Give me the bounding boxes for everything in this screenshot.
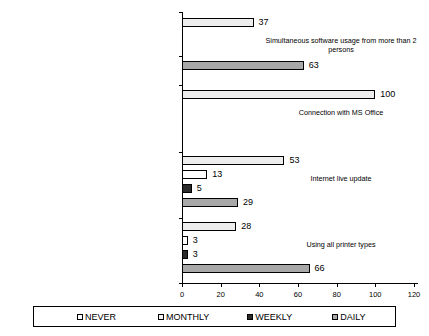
x-axis-tick-label: 60	[283, 290, 313, 299]
bar-daily-group-3	[182, 264, 310, 273]
bar-value-daily-group-0: 63	[309, 61, 319, 70]
legend-item-monthly[interactable]: MONTHLY	[158, 312, 209, 322]
legend-label-never: NEVER	[85, 312, 116, 322]
bar-chart: Simultaneous software usage from more th…	[0, 0, 429, 336]
legend-item-weekly[interactable]: WEEKLY	[247, 312, 292, 322]
bar-weekly-group-3	[182, 250, 188, 259]
y-axis-tick	[179, 85, 182, 86]
y-axis-tick	[179, 152, 182, 153]
bar-value-weekly-group-3: 3	[193, 250, 198, 259]
bar-value-weekly-group-2: 5	[197, 184, 202, 193]
bar-never-group-3	[182, 222, 236, 231]
x-axis-tick	[375, 283, 376, 287]
bar-value-never-group-3: 28	[241, 222, 251, 231]
x-axis-tick	[414, 283, 415, 287]
bar-value-monthly-group-3: 3	[193, 236, 198, 245]
x-axis-tick-label: 120	[399, 290, 429, 299]
monthly-swatch-icon	[158, 314, 164, 320]
bar-daily-group-0	[182, 61, 304, 70]
x-axis-line	[182, 283, 418, 284]
x-axis-tick	[182, 283, 183, 287]
legend-item-never[interactable]: NEVER	[77, 312, 116, 322]
never-swatch-icon	[77, 314, 83, 320]
bar-weekly-group-2	[182, 184, 192, 193]
plot-area: 0 20 40 60 80 100 120 37 63 100 53 13 5 …	[182, 12, 418, 283]
bar-monthly-group-2	[182, 170, 207, 179]
bar-value-never-group-2: 53	[289, 156, 299, 165]
x-axis-tick-label: 20	[206, 290, 236, 299]
legend-item-daily[interactable]: DAILY	[332, 312, 365, 322]
bar-never-group-1	[182, 90, 375, 99]
x-axis-tick	[259, 283, 260, 287]
legend-label-weekly: WEEKLY	[255, 312, 292, 322]
x-axis-tick-label: 100	[360, 290, 390, 299]
bar-daily-group-2	[182, 198, 238, 207]
bar-value-daily-group-3: 66	[315, 264, 325, 273]
x-axis-tick-label: 0	[167, 290, 197, 299]
legend-label-daily: DAILY	[340, 312, 365, 322]
bar-value-daily-group-2: 29	[243, 198, 253, 207]
bar-never-group-2	[182, 156, 284, 165]
daily-swatch-icon	[332, 314, 338, 320]
y-axis-tick	[179, 56, 182, 57]
chart-legend: NEVER MONTHLY WEEKLY DAILY	[33, 306, 396, 327]
y-axis-tick	[179, 218, 182, 219]
bar-never-group-0	[182, 18, 254, 27]
y-axis-tick	[179, 12, 182, 13]
x-axis-tick	[337, 283, 338, 287]
x-axis-tick	[298, 283, 299, 287]
bar-value-never-group-1: 100	[380, 90, 395, 99]
bar-monthly-group-3	[182, 236, 188, 245]
bar-value-monthly-group-2: 13	[212, 170, 222, 179]
legend-label-monthly: MONTHLY	[166, 312, 209, 322]
x-axis-tick	[221, 283, 222, 287]
bar-value-never-group-0: 37	[259, 18, 269, 27]
weekly-swatch-icon	[247, 314, 253, 320]
x-axis-tick-label: 40	[244, 290, 274, 299]
x-axis-tick-label: 80	[322, 290, 352, 299]
